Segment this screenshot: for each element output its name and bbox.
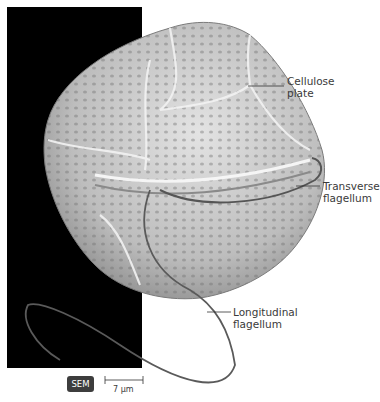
transverse-flagellum-label: Transverse flagellum [323, 180, 380, 204]
longitudinal-flagellum-label: Longitudinal flagellum [233, 306, 298, 330]
scale-bar [105, 376, 143, 384]
sem-badge: SEM [67, 376, 94, 392]
cellulose-plate-label: Cellulose plate [287, 75, 335, 99]
cellulose-plate-label-line2: plate [287, 87, 335, 99]
longitudinal-flagellum-label-line1: Longitudinal [233, 306, 298, 318]
longitudinal-flagellum-label-line2: flagellum [233, 318, 298, 330]
cellulose-plate-label-line1: Cellulose [287, 75, 335, 87]
scale-bar-label: 7 µm [113, 385, 134, 394]
transverse-flagellum-label-line1: Transverse [323, 180, 380, 192]
transverse-flagellum-label-line2: flagellum [323, 192, 380, 204]
